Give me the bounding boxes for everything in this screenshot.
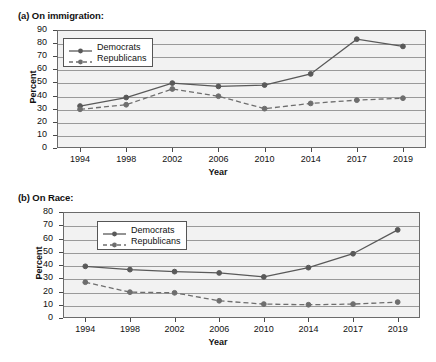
legend-label: Democrats [97,42,141,52]
data-point [172,269,177,274]
data-point [351,251,356,256]
data-point [354,37,359,42]
data-point [216,84,221,89]
legend-item-republicans[interactable]: Republicans [68,52,147,63]
data-point [401,44,406,49]
data-point [395,227,400,232]
data-point [308,72,313,77]
data-point [217,298,222,303]
data-point [216,94,221,99]
data-point [306,302,311,307]
data-point [401,96,406,101]
data-point [170,81,175,86]
data-point [261,302,266,307]
legend: DemocratsRepublicans [97,221,187,250]
legend-item-democrats[interactable]: Democrats [68,41,147,52]
data-point [128,290,133,295]
legend-label: Democrats [131,225,175,235]
legend-swatch-republicans [102,236,127,246]
series-layer [0,208,436,358]
legend-swatch-republicans [68,53,93,63]
data-point [170,87,175,92]
legend-swatch-democrats [68,42,93,52]
data-point [262,106,267,111]
data-point [172,290,177,295]
chart-immigration: Percent010203040506070809019941998200220… [0,26,436,176]
data-point [124,95,129,100]
data-point [83,264,88,269]
data-point [217,271,222,276]
data-point [354,98,359,103]
data-point [78,107,83,112]
data-point [124,102,129,107]
data-point [261,275,266,280]
panel-a-title: (a) On immigration: [18,10,104,21]
legend: DemocratsRepublicans [63,38,153,67]
data-point [262,83,267,88]
panel-b-title: (b) On Race: [18,192,73,203]
data-point [306,265,311,270]
legend-item-democrats[interactable]: Democrats [102,224,181,235]
data-point [351,302,356,307]
data-point [83,280,88,285]
legend-label: Republicans [97,53,147,63]
legend-item-republicans[interactable]: Republicans [102,235,181,246]
data-point [308,101,313,106]
legend-label: Republicans [131,236,181,246]
legend-swatch-democrats [102,225,127,235]
data-point [395,300,400,305]
data-point [128,267,133,272]
chart-race: Percent010203040506070801994199820022006… [0,208,436,358]
